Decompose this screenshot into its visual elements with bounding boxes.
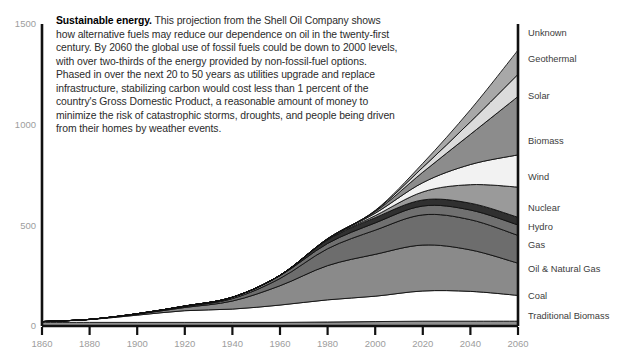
legend-label-solar: Solar [528, 91, 550, 101]
legend-label-hydro: Hydro [528, 222, 553, 232]
caption-lead: Sustainable energy. [56, 15, 152, 26]
legend-label-nuclear: Nuclear [528, 203, 560, 213]
legend-label-unknown: Unknown [528, 28, 567, 38]
y-tick-label: 500 [20, 220, 36, 231]
x-tick-label: 1940 [222, 338, 243, 349]
x-tick-label: 2040 [460, 338, 481, 349]
x-tick-label: 2020 [412, 338, 433, 349]
y-tick-label: 1500 [15, 18, 36, 29]
x-tick-label: 2000 [365, 338, 386, 349]
y-tick-label: 1000 [15, 119, 36, 130]
x-tick-label: 1960 [269, 338, 290, 349]
legend-label-wind: Wind [528, 172, 549, 182]
legend-label-coal: Coal [528, 291, 547, 301]
x-tick-label: 1900 [127, 338, 148, 349]
x-tick-label: 1880 [79, 338, 100, 349]
chart-legend: UnknownGeothermalSolarBiomassWindNuclear… [528, 28, 610, 321]
x-tick-label: 1980 [317, 338, 338, 349]
caption-body: This projection from the Shell Oil Compa… [56, 15, 397, 134]
x-tick-label: 1920 [174, 338, 195, 349]
x-tick-label: 1860 [31, 338, 52, 349]
legend-label-oil-natural-gas: Oil & Natural Gas [528, 264, 601, 274]
legend-label-traditional-biomass: Traditional Biomass [528, 311, 610, 321]
y-axis-ticks: 050010001500 [15, 18, 36, 331]
legend-label-gas: Gas [528, 240, 545, 250]
legend-label-geothermal: Geothermal [528, 54, 577, 64]
x-tick-label: 2060 [507, 338, 528, 349]
figure-caption: Sustainable energy. This projection from… [56, 14, 398, 136]
x-axis-ticks: 1860188019001920194019601980200020202040… [31, 327, 528, 349]
legend-label-biomass: Biomass [528, 136, 564, 146]
y-tick-label: 0 [31, 320, 36, 331]
sustainable-energy-figure: 050010001500 186018801900192019401960198… [0, 0, 639, 363]
